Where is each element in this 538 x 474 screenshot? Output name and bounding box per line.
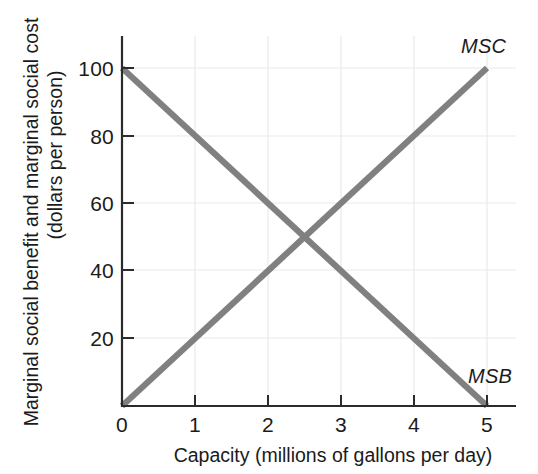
chart-figure: 100 80 60 40 20 0 1 2 3 4 5 MSC MSB Capa…	[0, 0, 538, 474]
y-axis-title: Marginal social benefit and marginal soc…	[20, 17, 66, 426]
x-tick-label-1: 1	[189, 413, 201, 436]
y-axis-title-line1: Marginal social benefit and marginal soc…	[20, 17, 42, 426]
x-tick-label-4: 4	[408, 413, 420, 436]
y-tick-marks	[122, 68, 134, 338]
x-tick-label-2: 2	[262, 413, 274, 436]
msc-curve-label: MSC	[461, 35, 507, 57]
y-tick-label-60: 60	[90, 192, 114, 215]
y-tick-label-100: 100	[78, 57, 114, 80]
msb-curve-label: MSB	[468, 365, 512, 387]
x-tick-labels: 0 1 2 3 4 5	[116, 413, 493, 436]
x-tick-label-5: 5	[481, 413, 493, 436]
y-tick-labels: 100 80 60 40 20	[78, 57, 114, 350]
y-tick-label-80: 80	[90, 125, 114, 148]
y-axis-title-line2: (dollars per person)	[44, 70, 66, 239]
x-axis-title: Capacity (millions of gallons per day)	[174, 444, 493, 466]
data-curves	[122, 68, 487, 406]
y-tick-label-40: 40	[90, 259, 114, 282]
x-tick-label-3: 3	[335, 413, 347, 436]
chart-svg: 100 80 60 40 20 0 1 2 3 4 5 MSC MSB Capa…	[0, 0, 538, 474]
y-tick-label-20: 20	[90, 327, 114, 350]
x-tick-marks	[195, 395, 487, 406]
x-tick-label-0: 0	[116, 413, 128, 436]
